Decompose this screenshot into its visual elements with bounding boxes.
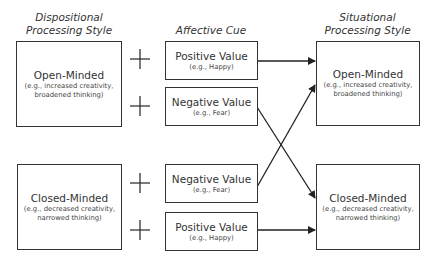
plus-icon-2 <box>130 96 150 116</box>
situational-closed-minded-box: Closed-Minded (e.g., decreased creativit… <box>316 164 420 250</box>
box-title: Open-Minded <box>333 68 403 81</box>
box-subtitle: broadened thinking) <box>34 91 103 100</box>
dispositional-open-minded-box: Open-Minded (e.g., increased creativity,… <box>16 41 122 127</box>
box-title: Open-Minded <box>34 69 104 82</box>
arrow-negative-to-open <box>257 85 315 187</box>
arrow-negative-to-closed <box>257 107 315 198</box>
box-title: Closed-Minded <box>31 192 108 205</box>
box-subtitle: (e.g., increased creativity, <box>25 82 114 91</box>
plus-icon-4 <box>130 220 150 240</box>
box-subtitle: (e.g., decreased creativity, <box>322 205 413 214</box>
affective-negative-box-1: Negative Value (e.g., Fear) <box>165 87 258 126</box>
box-title: Negative Value <box>172 173 251 186</box>
plus-icon-1 <box>130 49 150 69</box>
box-subtitle: (e.g., decreased creativity, <box>24 205 115 214</box>
box-subtitle: (e.g., Happy) <box>189 63 233 72</box>
box-subtitle: broadened thinking) <box>333 90 402 99</box>
box-title: Negative Value <box>172 96 251 109</box>
box-title: Positive Value <box>175 221 248 234</box>
box-subtitle: (e.g., Happy) <box>189 234 233 243</box>
box-subtitle: (e.g., Fear) <box>193 109 230 118</box>
box-subtitle: narrowed thinking) <box>37 214 101 223</box>
box-subtitle: (e.g., Fear) <box>193 186 230 195</box>
dispositional-closed-minded-box: Closed-Minded (e.g., decreased creativit… <box>17 164 122 250</box>
box-subtitle: (e.g., increased creativity, <box>324 81 413 90</box>
affective-positive-box-2: Positive Value (e.g., Happy) <box>165 212 258 251</box>
box-subtitle: narrowed thinking) <box>336 214 400 223</box>
plus-icon-3 <box>130 173 150 193</box>
box-title: Positive Value <box>175 50 248 63</box>
affective-negative-box-2: Negative Value (e.g., Fear) <box>165 164 258 203</box>
box-title: Closed-Minded <box>329 192 406 205</box>
situational-open-minded-box: Open-Minded (e.g., increased creativity,… <box>316 41 420 126</box>
affective-positive-box-1: Positive Value (e.g., Happy) <box>165 41 258 80</box>
